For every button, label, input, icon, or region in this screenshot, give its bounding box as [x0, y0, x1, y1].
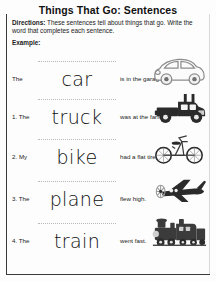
- answer-word: plane: [38, 190, 116, 209]
- sentence-lead: 3. The: [12, 195, 29, 202]
- answer-word: car: [38, 70, 116, 89]
- car-illustration: [150, 52, 208, 88]
- worksheet-page: Things That Go: Sentences Directions: Th…: [0, 0, 216, 281]
- answer-word: bike: [38, 148, 116, 167]
- answer-blank[interactable]: car: [38, 60, 116, 87]
- page-border-bottom: [6, 274, 210, 275]
- answer-blank[interactable]: plane: [38, 180, 116, 207]
- guide-line-top: [38, 181, 116, 182]
- bicycle-illustration: [150, 130, 208, 166]
- guide-line-top: [38, 61, 116, 62]
- page-border-left: [6, 14, 7, 275]
- train-illustration: [150, 214, 208, 250]
- sentence-tail: went fast.: [120, 237, 146, 244]
- directions: Directions: These sentences tell about t…: [12, 19, 206, 36]
- sentence-row-4: 4. The train went fast.: [12, 212, 208, 252]
- answer-word: truck: [38, 108, 116, 127]
- sentence-lead: The: [12, 75, 23, 82]
- sentence-tail: flew high.: [120, 195, 146, 202]
- answer-blank[interactable]: bike: [38, 138, 116, 165]
- sentence-lead: 1. The: [12, 113, 29, 120]
- sentence-lead: 4. The: [12, 237, 29, 244]
- sentence-row-3: 3. The plane flew high.: [12, 170, 208, 210]
- example-label: Example:: [12, 39, 40, 46]
- answer-blank[interactable]: truck: [38, 98, 116, 125]
- answer-blank[interactable]: train: [38, 222, 116, 249]
- truck-illustration: [150, 90, 208, 126]
- page-border-right: [209, 14, 210, 275]
- guide-line-top: [38, 223, 116, 224]
- sentence-row-2: 2. My bike had a flat tire.: [12, 128, 208, 168]
- directions-label: Directions:: [12, 19, 45, 26]
- sentence-row-example: The car is in the garage.: [12, 50, 208, 90]
- sentence-row-1: 1. The truck was at the farm.: [12, 88, 208, 128]
- page-title: Things That Go: Sentences: [0, 4, 216, 16]
- airplane-illustration: [150, 172, 208, 208]
- sentence-lead: 2. My: [12, 153, 27, 160]
- guide-line-top: [38, 139, 116, 140]
- guide-line-top: [38, 99, 116, 100]
- answer-word: train: [38, 232, 116, 251]
